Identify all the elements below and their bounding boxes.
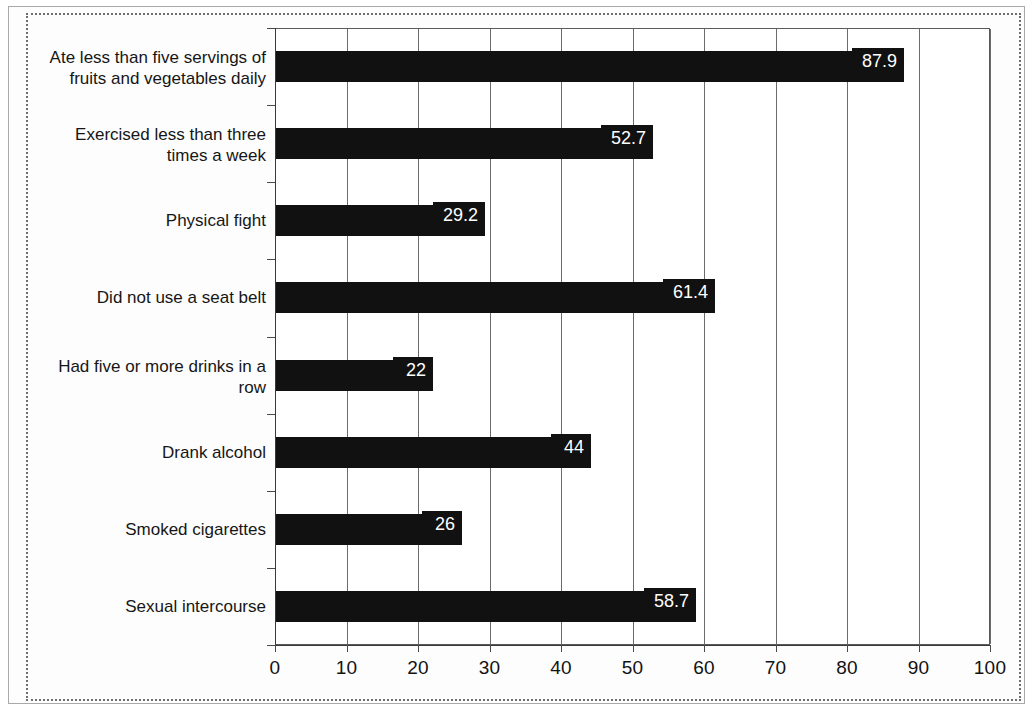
category-axis-tick (267, 105, 275, 106)
category-label-line: Ate less than five servings of (16, 47, 266, 68)
value-axis-tick-70 (776, 645, 777, 652)
bar (276, 282, 715, 313)
category-label-line: Sexual intercourse (16, 596, 266, 617)
bar (276, 437, 591, 468)
value-axis-tick-80 (847, 645, 848, 652)
value-axis-tick-0 (275, 645, 276, 652)
category-label-line: Had five or more drinks in a (16, 356, 266, 377)
gridline-80 (847, 29, 848, 644)
value-axis-tick-label: 40 (531, 657, 591, 679)
category-axis-tick (267, 337, 275, 338)
category-axis-tick (267, 491, 275, 492)
bar-value-label: 44 (551, 434, 591, 461)
category-label-line: row (16, 377, 266, 398)
bar-row: 61.4Did not use a seat belt (0, 282, 1033, 313)
gridline-90 (919, 29, 920, 644)
category-label-line: fruits and vegetables daily (16, 68, 266, 89)
bar (276, 51, 904, 82)
bar-value-label: 26 (422, 511, 462, 538)
value-axis-tick-100 (990, 645, 991, 652)
value-axis-tick-10 (347, 645, 348, 652)
value-axis-tick-label: 10 (317, 657, 377, 679)
bar-value-label: 58.7 (644, 588, 696, 615)
category-label: Had five or more drinks in arow (16, 356, 266, 398)
category-label: Smoked cigarettes (16, 519, 266, 540)
gridline-10 (347, 29, 348, 644)
gridline-20 (418, 29, 419, 644)
category-axis-tick (267, 414, 275, 415)
gridline-60 (704, 29, 705, 644)
category-axis-tick (267, 645, 275, 646)
value-axis-tick-label: 100 (960, 657, 1020, 679)
gridline-50 (633, 29, 634, 644)
category-label: Exercised less than threetimes a week (16, 124, 266, 166)
category-label-line: times a week (16, 145, 266, 166)
bar-value-label: 87.9 (852, 48, 904, 75)
plot-area (275, 28, 990, 645)
category-label: Physical fight (16, 210, 266, 231)
value-axis-tick-label: 30 (460, 657, 520, 679)
category-label-line: Physical fight (16, 210, 266, 231)
category-label: Did not use a seat belt (16, 287, 266, 308)
bar-row: 22Had five or more drinks in arow (0, 360, 1033, 391)
bar-row: 44Drank alcohol (0, 437, 1033, 468)
category-label-line: Drank alcohol (16, 442, 266, 463)
bar-value-label: 52.7 (601, 125, 653, 152)
value-axis-tick-label: 60 (674, 657, 734, 679)
category-label-line: Exercised less than three (16, 124, 266, 145)
bar-value-label: 61.4 (663, 279, 715, 306)
bar-value-label: 22 (393, 357, 433, 384)
chart-page: 0102030405060708090100 87.9Ate less than… (0, 0, 1033, 718)
horizontal-bar-chart: 0102030405060708090100 87.9Ate less than… (0, 0, 1033, 718)
bar-value-label: 29.2 (433, 202, 485, 229)
value-axis-tick-label: 70 (746, 657, 806, 679)
value-axis-tick-label: 80 (817, 657, 877, 679)
bar (276, 591, 696, 622)
value-axis-tick-40 (561, 645, 562, 652)
gridline-70 (776, 29, 777, 644)
bar-row: 29.2Physical fight (0, 205, 1033, 236)
gridline-30 (490, 29, 491, 644)
bar-row: 58.7Sexual intercourse (0, 591, 1033, 622)
value-axis-tick-90 (919, 645, 920, 652)
value-axis-tick-label: 90 (889, 657, 949, 679)
gridline-100 (990, 29, 991, 644)
category-label-line: Smoked cigarettes (16, 519, 266, 540)
value-axis-tick-60 (704, 645, 705, 652)
category-label-line: Did not use a seat belt (16, 287, 266, 308)
value-axis-tick-label: 50 (603, 657, 663, 679)
category-label: Sexual intercourse (16, 596, 266, 617)
category-axis-line (275, 28, 276, 647)
bar-row: 52.7Exercised less than threetimes a wee… (0, 128, 1033, 159)
bar-row: 87.9Ate less than five servings offruits… (0, 51, 1033, 82)
gridline-40 (561, 29, 562, 644)
value-axis-tick-50 (633, 645, 634, 652)
category-label: Ate less than five servings offruits and… (16, 47, 266, 89)
bar (276, 128, 653, 159)
value-axis-tick-20 (418, 645, 419, 652)
value-axis-tick-label: 20 (388, 657, 448, 679)
value-axis-tick-30 (490, 645, 491, 652)
category-label: Drank alcohol (16, 442, 266, 463)
category-axis-tick (267, 28, 275, 29)
bar-row: 26Smoked cigarettes (0, 514, 1033, 545)
value-axis-tick-label: 0 (245, 657, 305, 679)
category-axis-tick (267, 568, 275, 569)
category-axis-tick (267, 182, 275, 183)
category-axis-tick (267, 259, 275, 260)
